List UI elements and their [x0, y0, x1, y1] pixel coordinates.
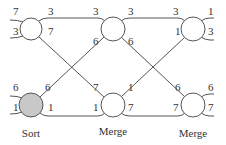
value-label: 1 [13, 101, 19, 113]
sorting-network-diagram: 7 3 3 7 6 1 6 1 3 6 3 6 7 1 1 7 3 1 1 3 … [0, 0, 226, 145]
value-label: 6 [93, 35, 99, 47]
value-label: 1 [48, 101, 54, 113]
value-label: 3 [128, 5, 134, 17]
value-label: 3 [173, 5, 179, 17]
value-label: 3 [13, 25, 19, 37]
value-label: 6 [45, 81, 51, 93]
value-label: 3 [93, 5, 99, 17]
comparator-node-merge2-bottom [181, 93, 205, 117]
comparator-node-sort-top [20, 18, 42, 40]
value-label: 6 [208, 81, 214, 93]
value-label: 3 [208, 25, 214, 37]
stage-caption-merge-1: Merge [99, 125, 128, 137]
value-label: 6 [128, 35, 134, 47]
value-label: 7 [128, 101, 134, 113]
stage-caption-sort: Sort [22, 127, 40, 139]
value-label: 7 [93, 81, 99, 93]
value-label: 1 [208, 5, 214, 17]
value-label: 1 [93, 101, 99, 113]
value-label: 1 [175, 25, 181, 37]
comparator-node-merge2-top [181, 17, 205, 41]
comparator-node-merge1-bottom [101, 93, 125, 117]
value-label: 7 [48, 25, 54, 37]
value-label: 7 [173, 101, 179, 113]
comparator-node-sort-bottom [19, 93, 43, 117]
value-label: 1 [128, 81, 134, 93]
value-label: 3 [48, 5, 54, 17]
comparator-node-merge1-top [101, 17, 125, 41]
value-label: 7 [13, 5, 19, 17]
value-label: 7 [208, 101, 214, 113]
value-label: 6 [175, 81, 181, 93]
value-label: 6 [13, 81, 19, 93]
stage-caption-merge-2: Merge [179, 127, 208, 139]
